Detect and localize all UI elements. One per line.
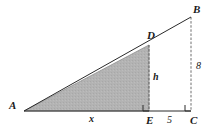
label-point-b: B	[193, 4, 200, 15]
label-point-e: E	[146, 115, 153, 126]
label-side-8: 8	[196, 61, 201, 71]
label-height-h: h	[153, 72, 159, 82]
label-point-c: C	[190, 115, 197, 126]
geometry-figure: A B C D E x 5 h 8	[0, 0, 217, 130]
label-side-x: x	[89, 114, 94, 124]
label-point-d: D	[147, 30, 155, 41]
shaded-triangle-ADE	[24, 45, 149, 111]
geometry-canvas	[0, 0, 217, 130]
label-side-5: 5	[167, 115, 172, 125]
right-angle-mark-C	[185, 105, 191, 111]
label-point-a: A	[9, 100, 16, 111]
